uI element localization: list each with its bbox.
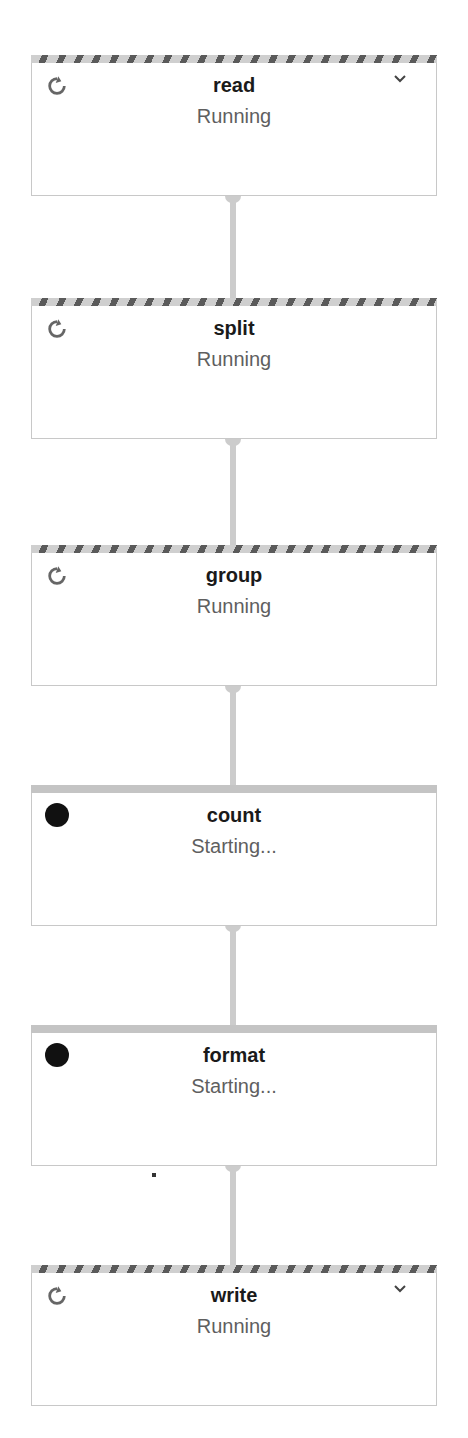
node-status: Starting...: [32, 835, 436, 858]
node-count[interactable]: count Starting...: [31, 785, 437, 926]
progress-stripe-bar: [31, 55, 437, 63]
progress-stripe-bar: [31, 298, 437, 306]
edge-read-split: [230, 196, 236, 299]
node-status: Running: [32, 595, 436, 618]
node-write[interactable]: write Running: [31, 1265, 437, 1406]
node-title: write: [32, 1284, 436, 1307]
node-group[interactable]: group Running: [31, 545, 437, 686]
progress-bar: [31, 785, 437, 793]
edge-format-write: [230, 1165, 236, 1266]
node-format[interactable]: format Starting...: [31, 1025, 437, 1166]
edge-group-count: [230, 686, 236, 786]
chevron-down-icon[interactable]: [392, 1283, 408, 1295]
node-status: Running: [32, 1315, 436, 1338]
node-status: Running: [32, 348, 436, 371]
node-title: format: [32, 1044, 436, 1067]
edge-split-group: [230, 439, 236, 546]
node-title: read: [32, 74, 436, 97]
progress-stripe-bar: [31, 545, 437, 553]
node-split[interactable]: split Running: [31, 298, 437, 439]
progress-stripe-bar: [31, 1265, 437, 1273]
progress-bar: [31, 1025, 437, 1033]
node-title: group: [32, 564, 436, 587]
node-status: Running: [32, 105, 436, 128]
node-title: split: [32, 317, 436, 340]
node-read[interactable]: read Running: [31, 55, 437, 196]
artifact-speck: [152, 1173, 156, 1177]
node-title: count: [32, 804, 436, 827]
chevron-down-icon[interactable]: [392, 73, 408, 85]
edge-count-format: [230, 925, 236, 1026]
node-status: Starting...: [32, 1075, 436, 1098]
